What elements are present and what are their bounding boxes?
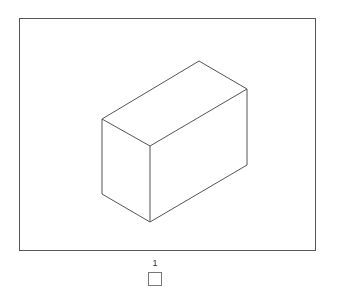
box-top-face [102, 61, 247, 146]
drawing-canvas[interactable] [19, 18, 316, 251]
page-thumbnail-button[interactable] [148, 272, 162, 286]
box-right-face [150, 89, 247, 222]
page-number-label: 1 [147, 258, 163, 268]
box-drawing [0, 0, 337, 293]
box-left-face [102, 119, 150, 222]
